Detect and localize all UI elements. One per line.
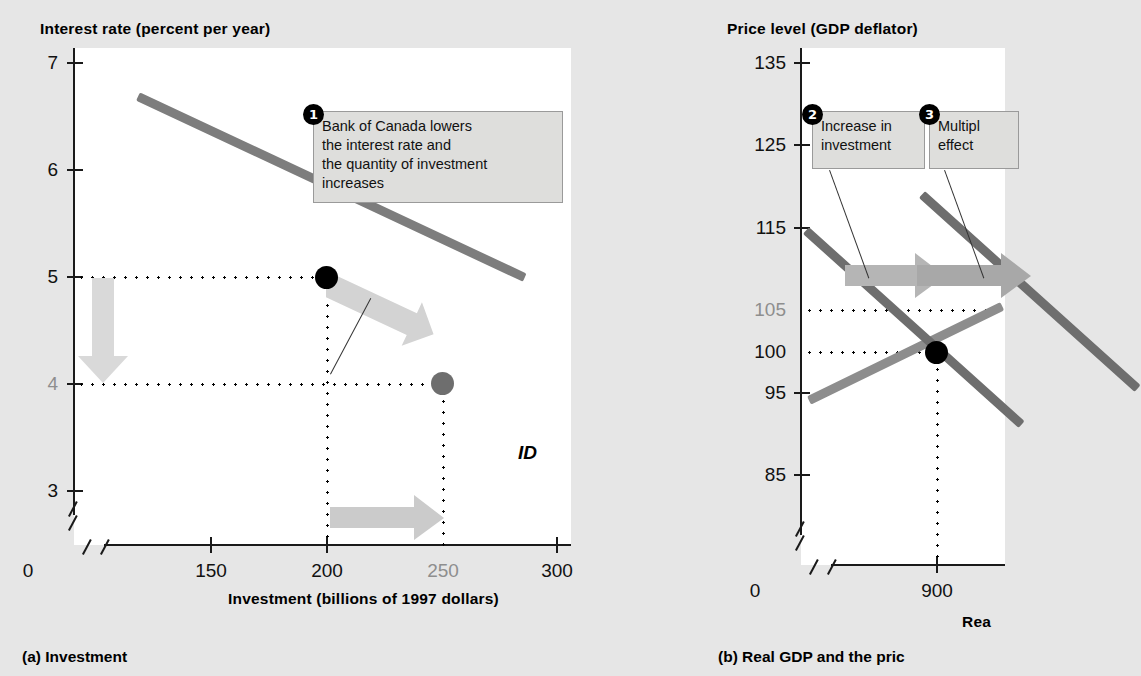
panel-b-guide-p105 [804,309,1005,312]
panel-b-caption: (b) Real GDP and the pric [718,648,905,666]
panel-b-callout-2: Increase in investment [812,111,925,169]
panel-a-ylabel-7: 7 [10,52,58,74]
panel-b-ytick-125 [794,144,810,146]
panel-b-guide-y900 [936,353,939,565]
panel-a-curve-label: ID [518,442,537,464]
panel-b-xlabel-900: 900 [909,580,965,602]
panel-a-ytick-3 [67,490,83,492]
panel-b-callout-3: Multipl effect [929,111,1019,169]
panel-b-ylabel-95: 95 [720,382,786,404]
panel-a-callout-1: Bank of Canada lowers the interest rate … [313,111,563,203]
panel-b-x-axis-title: Rea [962,613,991,631]
panel-a-x-axis-title: Investment (billions of 1997 dollars) [228,590,499,608]
panel-b-callout-3-badge: 3 [919,104,940,125]
panel-b-ytick-135 [794,62,810,64]
panel-a-x-axis-line [104,544,571,546]
panel-b-xlabel-0: 0 [727,580,783,602]
panel-b-point-initial [925,341,948,364]
panel-b-callout-3-line-1: Multipl [938,117,1010,136]
panel-a-y-axis-line [73,48,75,515]
panel-a-callout-1-line-3: the quantity of investment [322,155,554,174]
panel-a-xlabel-250: 250 [415,560,471,582]
panel-b-ylabel-125: 125 [720,134,786,156]
panel-b-ylabel-85: 85 [720,464,786,486]
panel-b-callout-2-badge: 2 [802,104,823,125]
panel-a-interest-fall-arrow [78,278,138,388]
panel-a-y-axis-title: Interest rate (percent per year) [40,20,270,38]
panel-a-ylabel-5: 5 [10,266,58,288]
panel-b-y-axis-line [800,48,802,535]
panel-a-point-new [431,372,454,395]
panel-a-ylabel-3: 3 [10,480,58,502]
panel-a-xlabel-200: 200 [299,560,355,582]
panel-b-ytick-85 [794,474,810,476]
panel-b-y-axis-title: Price level (GDP deflator) [727,20,918,38]
panel-a-xlabel-300: 300 [529,560,585,582]
panel-a-callout-1-line-4: increases [322,174,554,193]
panel-a-xtick-300 [556,537,558,553]
panel-a-point-initial [315,266,338,289]
panel-a-callout-1-line-2: the interest rate and [322,136,554,155]
panel-b-ytick-95 [794,392,810,394]
panel-a-xlabel-0: 0 [0,560,56,582]
panel-a-xlabel-150: 150 [183,560,239,582]
panel-a-movement-arrow [326,262,486,422]
panel-a-callout-1-badge: 1 [303,104,324,125]
panel-a-callout-1-line-1: Bank of Canada lowers [322,117,554,136]
panel-a-xtick-150 [210,537,212,553]
panel-a-ytick-6 [67,169,83,171]
panel-b-ylabel-100: 100 [720,341,786,363]
panel-b-callout-2-line-2: investment [821,136,916,155]
panel-b-callout-3-line-2: effect [938,136,1010,155]
panel-a-ylabel-4: 4 [10,373,58,395]
panel-a-ylabel-6: 6 [10,159,58,181]
panel-b-x-axis-line [831,564,1005,566]
panel-b-ylabel-105: 105 [720,299,786,321]
panel-a-investment-rise-arrow [330,495,450,541]
panel-a-ytick-7 [67,62,83,64]
panel-a-caption: (a) Investment [22,648,127,666]
panel-b-ylabel-135: 135 [720,52,786,74]
panel-b-ylabel-115: 115 [720,217,786,239]
panel-b-callout-2-line-1: Increase in [821,117,916,136]
